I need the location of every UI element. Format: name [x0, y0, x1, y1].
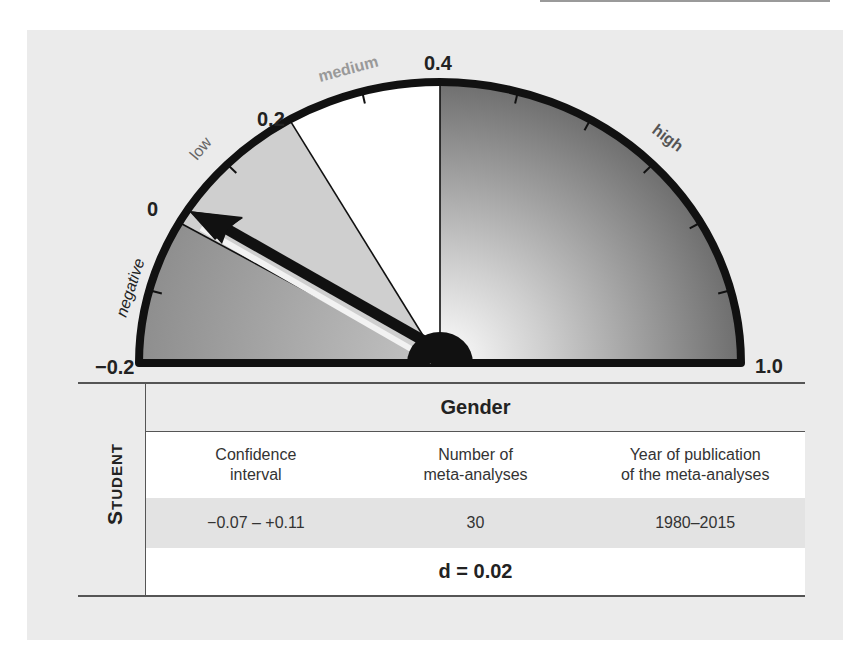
row-label-student: Student	[103, 443, 127, 525]
header-number-of-meta-analyses: Number of meta-analyses	[366, 445, 586, 485]
header-confidence-interval: Confidence interval	[146, 445, 366, 485]
table-value-row: −0.07 – +0.11 30 1980–2015	[146, 498, 805, 548]
zone-label-low: low	[186, 133, 215, 163]
header-line: Confidence	[146, 445, 366, 465]
header-line: meta-analyses	[366, 465, 586, 485]
scale-label-0: 0	[147, 198, 158, 220]
value-number-of-meta-analyses: 30	[366, 513, 586, 533]
scale-label-neg02: −0.2	[95, 356, 134, 378]
table-header-row: Confidence interval Number of meta-analy…	[146, 432, 805, 498]
scale-label-04: 0.4	[424, 52, 453, 74]
results-table: Student Gender Confidence interval Numbe…	[78, 382, 805, 597]
table-title: Gender	[146, 384, 805, 432]
header-line: interval	[146, 465, 366, 485]
zone-label-high: high	[649, 121, 686, 155]
header-year-of-publication: Year of publication of the meta-analyses	[585, 445, 805, 485]
value-year-of-publication: 1980–2015	[585, 513, 805, 533]
row-label-column: Student	[78, 384, 146, 595]
zone-label-medium: medium	[316, 53, 380, 85]
header-line: Number of	[366, 445, 586, 465]
value-confidence-interval: −0.07 – +0.11	[146, 513, 366, 533]
effect-size: d = 0.02	[146, 548, 805, 595]
header-line: Year of publication	[585, 445, 805, 465]
scale-label-02: 0.2	[257, 108, 285, 130]
scale-label-10: 1.0	[755, 355, 783, 377]
header-line: of the meta-analyses	[585, 465, 805, 485]
